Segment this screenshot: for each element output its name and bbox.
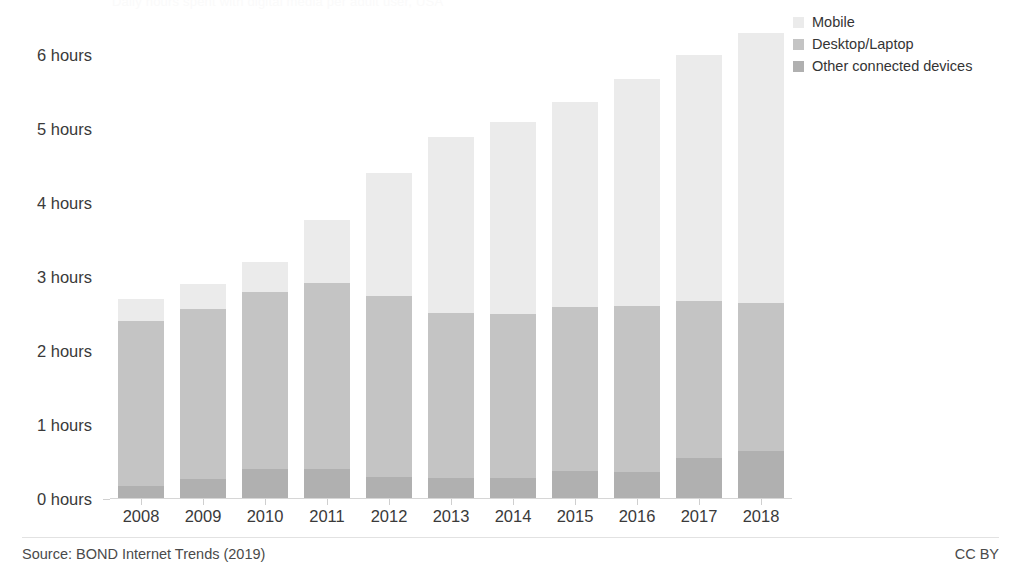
x-axis-line bbox=[110, 498, 792, 499]
bar-segment[interactable] bbox=[118, 299, 164, 321]
bar-segment[interactable] bbox=[738, 33, 784, 303]
bar-group bbox=[668, 18, 730, 499]
stacked-bar[interactable] bbox=[490, 122, 536, 499]
bar-segment[interactable] bbox=[242, 292, 288, 470]
bar-segment[interactable] bbox=[428, 313, 474, 478]
x-axis: 2008200920102011201220132014201520162017… bbox=[110, 505, 792, 533]
bar-segment[interactable] bbox=[118, 321, 164, 486]
chart-legend: Mobile Desktop/Laptop Other connected de… bbox=[793, 12, 1015, 78]
x-axis-tick-label: 2009 bbox=[172, 505, 234, 533]
stacked-bar[interactable] bbox=[428, 137, 474, 499]
legend-swatch-icon bbox=[793, 17, 804, 28]
bar-segment[interactable] bbox=[180, 479, 226, 499]
bar-segment[interactable] bbox=[614, 472, 660, 499]
x-axis-tick-label: 2017 bbox=[668, 505, 730, 533]
license-note[interactable]: CC BY bbox=[955, 546, 999, 562]
chart-title-cropped: Daily hours spent with digital media per… bbox=[112, 0, 443, 9]
bar-segment[interactable] bbox=[552, 307, 598, 471]
y-axis-tick-label: 0 hours bbox=[37, 490, 92, 509]
chart-container: Daily hours spent with digital media per… bbox=[0, 0, 1021, 579]
stacked-bar[interactable] bbox=[242, 262, 288, 499]
source-note: Source: BOND Internet Trends (2019) bbox=[22, 546, 265, 562]
legend-item-label: Mobile bbox=[812, 15, 855, 30]
bar-segment[interactable] bbox=[676, 301, 722, 458]
bar-group bbox=[358, 18, 420, 499]
bar-segment[interactable] bbox=[614, 306, 660, 472]
y-axis-tick-label: 4 hours bbox=[37, 194, 92, 213]
bar-segment[interactable] bbox=[304, 220, 350, 283]
footer-divider bbox=[22, 537, 999, 538]
bar-group bbox=[296, 18, 358, 499]
bar-segment[interactable] bbox=[366, 477, 412, 499]
bar-group bbox=[544, 18, 606, 499]
bar-group bbox=[110, 18, 172, 499]
stacked-bar[interactable] bbox=[552, 102, 598, 499]
stacked-bar[interactable] bbox=[676, 55, 722, 499]
bar-segment[interactable] bbox=[552, 471, 598, 499]
bar-segment[interactable] bbox=[180, 284, 226, 308]
bar-segment[interactable] bbox=[428, 478, 474, 499]
y-axis: 0 hours1 hours2 hours3 hours4 hours5 hou… bbox=[0, 18, 110, 499]
stacked-bar[interactable] bbox=[366, 173, 412, 499]
stacked-bar[interactable] bbox=[304, 220, 350, 499]
bar-segment[interactable] bbox=[304, 283, 350, 469]
bar-segment[interactable] bbox=[304, 469, 350, 499]
plot-area bbox=[110, 18, 792, 499]
bar-segment[interactable] bbox=[614, 79, 660, 305]
bar-group bbox=[172, 18, 234, 499]
y-axis-tick-mark bbox=[103, 499, 110, 500]
bar-group bbox=[606, 18, 668, 499]
bar-segment[interactable] bbox=[738, 303, 784, 451]
x-axis-tick-label: 2018 bbox=[730, 505, 792, 533]
legend-item-mobile[interactable]: Mobile bbox=[793, 12, 1015, 33]
bar-segment[interactable] bbox=[676, 458, 722, 499]
bar-segment[interactable] bbox=[552, 102, 598, 308]
legend-swatch-icon bbox=[793, 61, 804, 72]
bar-segment[interactable] bbox=[428, 137, 474, 313]
legend-item-label: Other connected devices bbox=[812, 59, 972, 74]
x-axis-tick-label: 2015 bbox=[544, 505, 606, 533]
x-axis-tick-label: 2013 bbox=[420, 505, 482, 533]
bar-segment[interactable] bbox=[676, 55, 722, 301]
y-axis-tick-label: 6 hours bbox=[37, 46, 92, 65]
bar-segment[interactable] bbox=[738, 451, 784, 499]
chart-footer: Source: BOND Internet Trends (2019) CC B… bbox=[22, 546, 999, 562]
x-axis-tick-label: 2008 bbox=[110, 505, 172, 533]
bar-segment[interactable] bbox=[490, 122, 536, 314]
stacked-bar[interactable] bbox=[614, 79, 660, 499]
stacked-bar[interactable] bbox=[180, 284, 226, 499]
bar-segment[interactable] bbox=[242, 262, 288, 292]
bar-segment[interactable] bbox=[180, 309, 226, 479]
bar-group bbox=[420, 18, 482, 499]
bar-segment[interactable] bbox=[366, 173, 412, 295]
legend-item-other-connected-devices[interactable]: Other connected devices bbox=[793, 56, 1015, 77]
stacked-bar[interactable] bbox=[738, 33, 784, 499]
bar-segment[interactable] bbox=[490, 314, 536, 478]
x-axis-tick-label: 2011 bbox=[296, 505, 358, 533]
bar-segment[interactable] bbox=[490, 478, 536, 499]
bar-series-group bbox=[110, 18, 792, 499]
legend-item-desktop-laptop[interactable]: Desktop/Laptop bbox=[793, 34, 1015, 55]
bar-group bbox=[730, 18, 792, 499]
y-axis-tick-label: 2 hours bbox=[37, 342, 92, 361]
x-axis-tick-label: 2016 bbox=[606, 505, 668, 533]
legend-item-label: Desktop/Laptop bbox=[812, 37, 914, 52]
stacked-bar[interactable] bbox=[118, 299, 164, 499]
bar-group bbox=[482, 18, 544, 499]
bar-segment[interactable] bbox=[242, 469, 288, 499]
x-axis-tick-label: 2012 bbox=[358, 505, 420, 533]
y-axis-tick-label: 1 hours bbox=[37, 416, 92, 435]
y-axis-tick-label: 3 hours bbox=[37, 268, 92, 287]
x-axis-tick-label: 2010 bbox=[234, 505, 296, 533]
bar-group bbox=[234, 18, 296, 499]
x-axis-tick-label: 2014 bbox=[482, 505, 544, 533]
bar-segment[interactable] bbox=[366, 296, 412, 477]
y-axis-tick-label: 5 hours bbox=[37, 120, 92, 139]
legend-swatch-icon bbox=[793, 39, 804, 50]
